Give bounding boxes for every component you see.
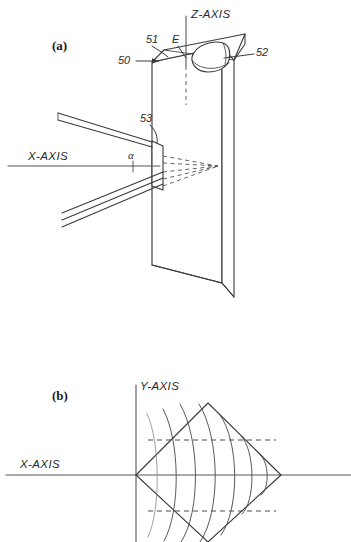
wedge-upper-bottom-line [58,120,152,147]
z-axis-label: Z-AXIS [190,8,230,20]
x-axis-label-b: X-AXIS [19,458,60,470]
angle-alpha-symbol: α [128,149,134,161]
panel-a-group: (a) Z-AXIS E 51 [8,8,268,297]
wedge-upper-top-line [58,113,152,142]
callout-E-label: E [172,33,180,45]
y-axis-label-b: Y-AXIS [140,380,179,392]
beam-ray-1 [62,172,163,213]
callout-52-label: 52 [256,46,268,58]
panel-b-group: (b) Y-AXIS X-AXIS [6,380,351,542]
panel-a-label: (a) [52,38,67,53]
panel-b-label: (b) [52,388,68,403]
contour-4 [199,404,215,542]
callout-53-label: 53 [140,112,153,124]
callout-51-label: 51 [146,33,158,45]
figure-canvas: (a) Z-AXIS E 51 [0,0,351,542]
x-axis-label-a: X-AXIS [27,150,68,162]
rhombus-boundary [136,403,281,542]
callout-50-label: 50 [118,54,131,66]
contour-3 [180,404,196,542]
patent-figure: (a) Z-AXIS E 51 [0,0,351,542]
plate-side-face [222,47,234,297]
beam-ray-3 [62,184,163,227]
beam-ray-2 [62,178,163,220]
